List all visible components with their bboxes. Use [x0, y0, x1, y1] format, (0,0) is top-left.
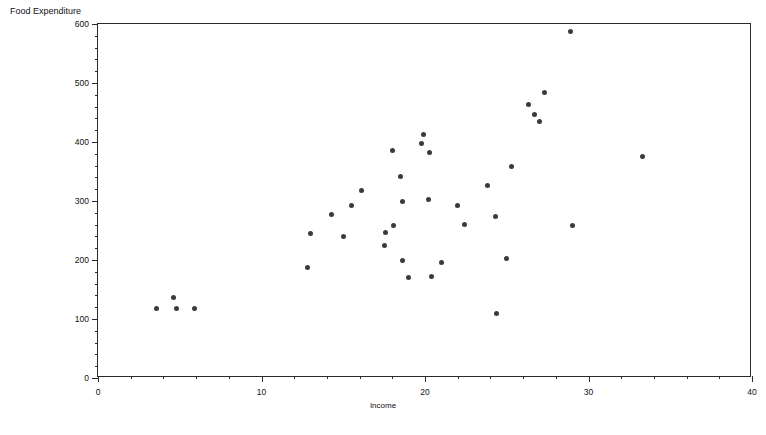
- x-tick-label: 0: [96, 387, 101, 397]
- scatter-point: [192, 306, 197, 311]
- y-tick-label: 200: [75, 255, 89, 265]
- x-tick-major: [589, 376, 590, 382]
- y-tick-label: 300: [75, 196, 89, 206]
- x-tick-minor: [687, 376, 688, 379]
- y-tick-minor: [95, 107, 98, 108]
- scatter-point: [398, 174, 403, 179]
- scatter-point: [341, 234, 346, 239]
- x-tick-minor: [621, 376, 622, 379]
- x-tick-minor: [490, 376, 491, 379]
- scatter-point: [390, 148, 395, 153]
- y-tick-minor: [95, 213, 98, 214]
- scatter-point: [391, 223, 396, 228]
- y-tick-minor: [95, 48, 98, 49]
- y-tick-minor: [95, 343, 98, 344]
- x-tick-minor: [654, 376, 655, 379]
- scatter-point: [383, 230, 388, 235]
- y-tick-label: 600: [75, 19, 89, 29]
- scatter-point: [154, 306, 159, 311]
- scatter-point: [570, 223, 575, 228]
- scatter-point: [349, 203, 354, 208]
- x-tick-major: [262, 376, 263, 382]
- x-tick-label: 10: [257, 387, 266, 397]
- y-tick-label: 400: [75, 137, 89, 147]
- scatter-point: [174, 306, 179, 311]
- scatter-point: [485, 183, 490, 188]
- y-tick-minor: [95, 71, 98, 72]
- y-tick-minor: [95, 154, 98, 155]
- scatter-point: [427, 150, 432, 155]
- scatter-point: [493, 214, 498, 219]
- x-tick-minor: [458, 376, 459, 379]
- scatter-point: [532, 112, 537, 117]
- y-tick-label: 0: [84, 373, 89, 383]
- y-tick-label: 500: [75, 78, 89, 88]
- y-tick-minor: [95, 366, 98, 367]
- y-tick-minor: [95, 118, 98, 119]
- y-tick-minor: [95, 284, 98, 285]
- y-tick-minor: [95, 295, 98, 296]
- x-tick-label: 40: [747, 387, 756, 397]
- y-tick-major: [92, 319, 98, 320]
- scatter-point: [421, 132, 426, 137]
- scatter-point: [400, 199, 405, 204]
- scatter-point: [171, 295, 176, 300]
- scatter-point: [308, 231, 313, 236]
- scatter-point: [526, 102, 531, 107]
- y-tick-minor: [95, 189, 98, 190]
- y-tick-minor: [95, 307, 98, 308]
- y-tick-minor: [95, 166, 98, 167]
- y-tick-minor: [95, 177, 98, 178]
- scatter-point: [439, 260, 444, 265]
- y-tick-minor: [95, 225, 98, 226]
- scatter-point: [494, 311, 499, 316]
- y-tick-minor: [95, 248, 98, 249]
- scatter-point: [305, 265, 310, 270]
- x-tick-minor: [327, 376, 328, 379]
- x-tick-major: [752, 376, 753, 382]
- y-tick-major: [92, 260, 98, 261]
- y-tick-major: [92, 142, 98, 143]
- y-tick-major: [92, 83, 98, 84]
- chart-page: Food Expenditure 0100200300400500600 010…: [0, 0, 766, 435]
- scatter-point: [640, 154, 645, 159]
- scatter-point: [426, 197, 431, 202]
- scatter-point: [509, 164, 514, 169]
- x-tick-minor: [392, 376, 393, 379]
- x-tick-minor: [196, 376, 197, 379]
- scatter-point: [406, 275, 411, 280]
- y-tick-minor: [95, 36, 98, 37]
- scatter-point: [568, 29, 573, 34]
- scatter-point: [400, 258, 405, 263]
- scatter-point: [359, 188, 364, 193]
- scatter-point: [537, 119, 542, 124]
- y-tick-minor: [95, 236, 98, 237]
- x-tick-minor: [556, 376, 557, 379]
- scatter-point: [419, 141, 424, 146]
- x-tick-major: [425, 376, 426, 382]
- scatter-point: [429, 274, 434, 279]
- scatter-point: [462, 222, 467, 227]
- x-tick-minor: [163, 376, 164, 379]
- scatter-point: [382, 243, 387, 248]
- y-tick-minor: [95, 59, 98, 60]
- y-tick-minor: [95, 331, 98, 332]
- x-tick-label: 20: [420, 387, 429, 397]
- scatter-point: [329, 212, 334, 217]
- scatter-point: [504, 256, 509, 261]
- x-tick-minor: [294, 376, 295, 379]
- y-axis-label: Food Expenditure: [10, 6, 81, 16]
- y-tick-major: [92, 24, 98, 25]
- x-tick-major: [98, 376, 99, 382]
- scatter-point: [542, 90, 547, 95]
- y-tick-label: 100: [75, 314, 89, 324]
- y-tick-minor: [95, 130, 98, 131]
- y-tick-minor: [95, 95, 98, 96]
- x-tick-label: 30: [584, 387, 593, 397]
- x-tick-minor: [229, 376, 230, 379]
- y-tick-minor: [95, 354, 98, 355]
- plot-area: 0100200300400500600 010203040: [97, 23, 751, 377]
- x-tick-minor: [719, 376, 720, 379]
- scatter-point: [455, 203, 460, 208]
- x-tick-minor: [523, 376, 524, 379]
